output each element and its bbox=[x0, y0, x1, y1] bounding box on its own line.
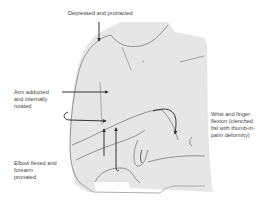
shoulder-label: Depressed and protracted bbox=[68, 10, 133, 17]
wrist-label: Wrist and finger flexion (clenched fist … bbox=[211, 111, 267, 139]
arm-label: Arm adducted and internally rotated bbox=[14, 89, 66, 110]
elbow-label: Elbow flexed and forearm pronated bbox=[14, 160, 64, 181]
body-silhouette bbox=[70, 22, 215, 192]
